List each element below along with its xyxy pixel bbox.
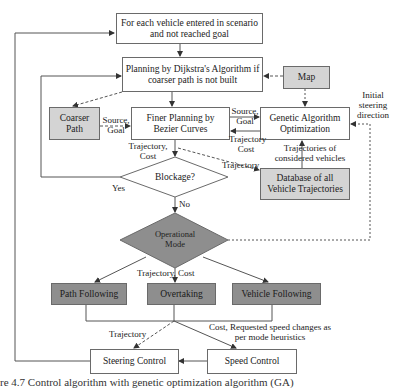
speed-control-box: Speed Control — [207, 349, 297, 374]
figure-caption: re 4.7 Control algorithm with genetic op… — [0, 376, 294, 388]
operational-mode-decision: Operational Mode — [140, 229, 210, 249]
coarser-line-1: Coarser — [60, 113, 90, 124]
dijkstra-line-2: coarser path is not built — [148, 75, 237, 86]
edge-label-line: Cost, Requested speed changes as — [205, 322, 335, 332]
steering-control-label: Steering Control — [103, 356, 166, 367]
edge-label-trajectory-cost-ga: Trajectory Cost — [229, 134, 263, 154]
edge-label-text: Trajectory — [222, 160, 259, 170]
start-box: For each vehicle entered in scenario and… — [116, 13, 263, 44]
ga-line-2: Optimization — [280, 124, 330, 135]
blockage-decision: Blockage? — [140, 172, 210, 183]
edge-label-trajectory-cost-finer: Trajectory, Cost — [124, 141, 172, 161]
finer-planning-box: Finer Planning by Bezier Curves — [131, 107, 230, 140]
overtaking-label: Overtaking — [160, 289, 203, 300]
coarser-path-box: Coarser Path — [49, 107, 100, 140]
edge-label-no: No — [179, 199, 190, 209]
path-following-box: Path Following — [51, 283, 127, 305]
edge-label-initial-steering: Initial steering direction — [350, 90, 396, 120]
finer-line-2: Bezier Curves — [153, 124, 207, 135]
edge-label-line: Source, — [101, 115, 131, 125]
edge-label-text: Yes — [112, 183, 125, 193]
steering-control-box: Steering Control — [90, 349, 179, 374]
edge-label-line: direction — [350, 110, 396, 120]
edge-label-text: Trajectory, Cost — [137, 268, 195, 278]
edge-label-line: Goal — [229, 116, 261, 126]
edge-label-trajectory-steering: Trajectory — [109, 329, 146, 339]
opmode-line-2: Mode — [140, 239, 210, 249]
ga-line-1: Genetic Algorithm — [270, 113, 341, 124]
path-following-label: Path Following — [60, 289, 118, 300]
edge-label-line: Source, — [229, 106, 261, 116]
vehicle-following-box: Vehicle Following — [232, 283, 321, 305]
blockage-label: Blockage? — [155, 172, 195, 182]
edge-label-line: Cost — [229, 144, 263, 154]
edge-label-trajectory-cost-modes: Trajectory, Cost — [137, 268, 195, 278]
edge-label-line: Initial — [350, 90, 396, 100]
opmode-line-1: Operational — [140, 229, 210, 239]
edge-label-text: Trajectory — [109, 329, 146, 339]
edge-label-line: steering — [350, 100, 396, 110]
edge-label-yes: Yes — [112, 183, 125, 193]
map-label: Map — [298, 72, 315, 83]
database-line-2: Vehicle Trajectories — [267, 184, 343, 195]
vehicle-following-label: Vehicle Following — [242, 289, 312, 300]
edge-label-line: Trajectory — [229, 134, 263, 144]
edge-label-line: considered vehicles — [272, 153, 348, 163]
database-box: Database of all Vehicle Trajectories — [260, 168, 350, 200]
map-box: Map — [283, 66, 330, 89]
database-line-1: Database of all — [277, 173, 334, 184]
edge-label-cost-speed: Cost, Requested speed changes as per mod… — [205, 322, 335, 342]
finer-line-1: Finer Planning by — [146, 113, 214, 124]
edge-label-source-goal-coarser: Source, Goal — [101, 115, 131, 135]
edge-label-line: Goal — [101, 125, 131, 135]
genetic-algorithm-box: Genetic Algorithm Optimization — [260, 107, 350, 140]
start-line-1: For each vehicle entered in scenario — [121, 18, 258, 29]
overtaking-box: Overtaking — [147, 283, 216, 305]
start-line-2: and not reached goal — [150, 29, 229, 40]
edge-label-source-goal-ga: Source, Goal — [229, 106, 261, 126]
speed-control-label: Speed Control — [225, 356, 280, 367]
edge-label-line: Trajectory, — [124, 141, 172, 151]
edge-label-text: No — [179, 199, 190, 209]
edge-label-trajectory-db: Trajectory — [222, 160, 259, 170]
edge-label-line: Cost — [124, 151, 172, 161]
edge-label-trajectories-considered: Trajectories of considered vehicles — [272, 143, 348, 163]
edge-label-line: per mode heuristics — [205, 332, 335, 342]
edge-label-line: Trajectories of — [272, 143, 348, 153]
dijkstra-planning-box: Planning by Dijkstra's Algorithm if coar… — [122, 57, 263, 92]
dijkstra-line-1: Planning by Dijkstra's Algorithm if — [126, 64, 260, 75]
coarser-line-2: Path — [66, 124, 83, 135]
